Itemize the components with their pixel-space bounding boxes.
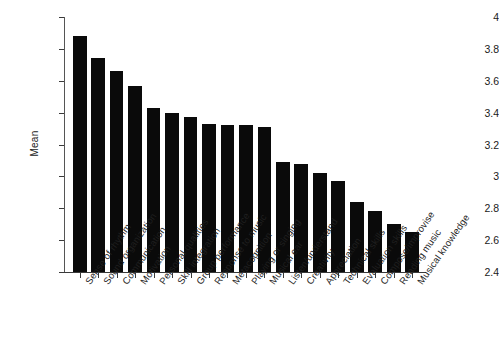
y-tick-mark [59,113,64,114]
y-tick-label: 3.4 [444,107,499,119]
bar-chart: Mean 43.83.63.43.232.82.62.4 Sense of rh… [0,0,499,362]
bar [91,58,105,272]
y-tick-mark [59,17,64,18]
plot-area: 43.83.63.43.232.82.62.4 Sense of rhythmS… [0,0,499,362]
y-tick-mark [59,176,64,177]
y-tick-mark [59,240,64,241]
x-tick-mark [80,273,81,278]
y-tick-mark [59,145,64,146]
y-tick-label: 2.8 [444,202,499,214]
bar [73,36,87,272]
y-tick-label: 2.4 [444,266,499,278]
y-tick-label: 3.2 [444,139,499,151]
y-tick-mark [59,49,64,50]
y-tick-label: 4 [444,11,499,23]
y-tick-mark [59,272,64,273]
y-tick-label: 3.6 [444,75,499,87]
y-tick-label: 3.8 [444,43,499,55]
y-tick-label: 3 [444,170,499,182]
y-tick-mark [59,208,64,209]
y-axis-line [64,17,65,273]
y-tick-mark [59,81,64,82]
